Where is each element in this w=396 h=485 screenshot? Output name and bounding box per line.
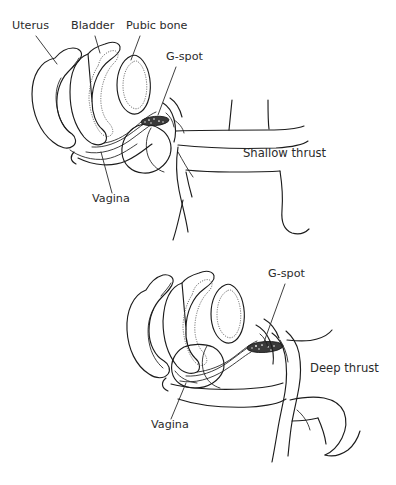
shallow-thrust-panel: Uterus Bladder Pubic bone G-spot Vagina … (12, 19, 327, 240)
vagina-shape (71, 144, 152, 165)
g-spot-marker-deep (247, 340, 284, 353)
vagina-shape-deep (162, 378, 286, 407)
g-spot-marker (141, 115, 170, 127)
body-outline-shallow (173, 100, 309, 240)
leader-lines-shallow (36, 36, 176, 193)
label-pubic-bone: Pubic bone (126, 19, 188, 32)
figure-canvas: Uterus Bladder Pubic bone G-spot Vagina … (0, 0, 396, 485)
label-vagina-deep: Vagina (151, 418, 189, 431)
deep-thrust-panel: G-spot Vagina Deep thrust (127, 267, 379, 462)
label-shallow-thrust: Shallow thrust (243, 146, 327, 160)
label-bladder: Bladder (71, 19, 115, 32)
label-vagina-shallow: Vagina (92, 192, 130, 205)
label-gspot-shallow: G-spot (166, 50, 203, 63)
leader-gspot-deep (264, 284, 285, 342)
leader-uterus (36, 36, 57, 64)
anatomical-figure: Uterus Bladder Pubic bone G-spot Vagina … (0, 0, 396, 485)
label-uterus: Uterus (12, 19, 49, 32)
pelvic-fascia-lines-deep (180, 341, 257, 382)
uterus-shape-deep (127, 275, 173, 378)
label-deep-thrust: Deep thrust (310, 361, 379, 375)
bladder-shape (70, 42, 120, 144)
pubic-bone-shape-deep (211, 284, 244, 343)
leader-gspot (158, 67, 176, 115)
pubic-bone-shape (117, 55, 150, 114)
leader-bladder (95, 36, 100, 53)
label-gspot-deep: G-spot (268, 267, 305, 280)
penis-shape-shallow (174, 120, 308, 148)
